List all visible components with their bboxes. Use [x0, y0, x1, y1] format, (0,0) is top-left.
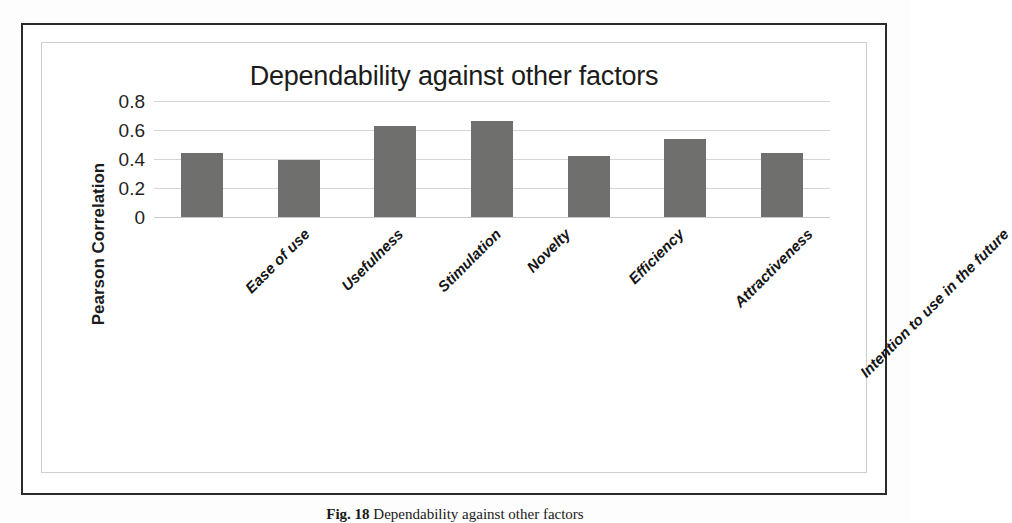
chart-title: Dependability against other factors [42, 61, 866, 92]
bar-slot [444, 101, 541, 217]
x-category-label: Intention to use in the future [857, 226, 1011, 380]
bar-slot [637, 101, 734, 217]
bar [761, 153, 803, 217]
bar-slot [733, 101, 830, 217]
bar [374, 126, 416, 217]
x-category-label: Novelty [524, 226, 573, 275]
figure-outer-border: Dependability against other factors Pear… [21, 23, 887, 495]
bar [181, 153, 223, 217]
bar-series [154, 101, 830, 217]
y-tick-label: 0.6 [119, 121, 145, 140]
x-category-label: Ease of use [243, 226, 313, 296]
figure-caption-text: Dependability against other factors [373, 506, 583, 522]
y-axis-title: Pearson Correlation [89, 139, 109, 349]
y-tick-label: 0 [134, 208, 145, 227]
gridline [154, 217, 830, 218]
x-category-label: Stimulation [435, 226, 503, 294]
bar-slot [251, 101, 348, 217]
bar-slot [347, 101, 444, 217]
y-tick-label: 0.4 [119, 150, 145, 169]
bar [568, 156, 610, 217]
bar [664, 139, 706, 217]
y-tick-label: 0.2 [119, 179, 145, 198]
y-tick-label: 0.8 [119, 92, 145, 111]
plot-area: 00.20.40.60.8 Ease of useUsefulnessStimu… [154, 101, 830, 217]
figure-caption-label: Fig. 18 [326, 506, 369, 522]
bar [471, 121, 513, 217]
bar-slot [154, 101, 251, 217]
x-category-label: Usefulness [338, 226, 405, 293]
figure-caption: Fig. 18 Dependability against other fact… [0, 506, 910, 523]
bar-slot [540, 101, 637, 217]
x-category-label: Efficiency [625, 226, 686, 287]
chart-object-border: Dependability against other factors Pear… [41, 42, 867, 473]
bar [278, 160, 320, 217]
x-category-label: Attractiveness [731, 226, 815, 310]
